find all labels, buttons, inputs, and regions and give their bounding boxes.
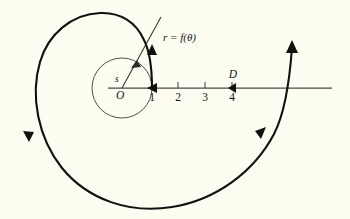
point-d-label: D xyxy=(228,68,238,80)
axis-tick-label-4: 4 xyxy=(229,91,235,103)
origin-label: O xyxy=(116,89,125,101)
axis-tick-label-3: 3 xyxy=(202,91,208,103)
arc-length-label: s xyxy=(115,74,119,84)
polar-spiral-figure: r = f(θ) s O D 1 2 3 4 xyxy=(0,0,350,219)
axis-tick-label-2: 2 xyxy=(175,91,181,103)
curve-equation-label: r = f(θ) xyxy=(163,31,196,44)
axis-tick-label-1: 1 xyxy=(149,91,155,103)
